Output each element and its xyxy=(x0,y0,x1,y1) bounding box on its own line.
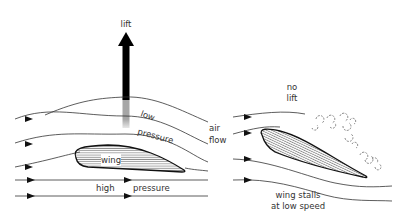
flow-label: flow xyxy=(209,135,227,145)
pressure-top-label: pressure xyxy=(136,126,174,145)
low-label: low xyxy=(139,108,156,122)
wing-label: wing xyxy=(101,155,121,165)
wing-shape xyxy=(75,145,185,172)
stall-caption-line1: wing stalls xyxy=(276,190,321,200)
no-label: no xyxy=(287,82,298,92)
lift-arrow xyxy=(118,32,134,128)
air-label: air xyxy=(209,123,221,133)
right-diagram: no lift xyxy=(233,82,392,211)
high-label: high xyxy=(96,183,115,193)
stalled-wing-shape xyxy=(261,129,367,178)
pressure-bottom-label: pressure xyxy=(133,183,170,193)
lift-label: lift xyxy=(121,19,133,29)
left-diagram: lift wing low pressure high pressure xyxy=(15,19,208,199)
airfoil-lift-diagram: lift wing low pressure high pressure xyxy=(0,0,408,222)
stall-caption-line2: at low speed xyxy=(271,201,325,211)
no-lift-label: lift xyxy=(287,93,299,103)
